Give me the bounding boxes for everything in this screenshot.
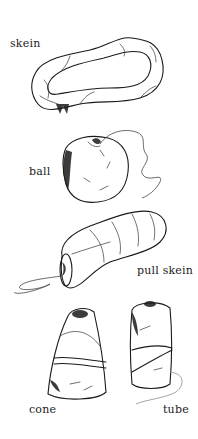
- label-skein: skein: [10, 37, 40, 50]
- label-cone: cone: [29, 403, 56, 416]
- pull-skein-drawing: [14, 211, 166, 293]
- label-pull-skein: pull skein: [137, 264, 193, 277]
- label-tube: tube: [163, 403, 189, 416]
- tube-drawing: [131, 301, 183, 404]
- label-ball: ball: [29, 165, 50, 178]
- cone-drawing: [48, 309, 106, 400]
- yarn-forms-illustration: [0, 0, 198, 439]
- ball-drawing: [63, 131, 161, 203]
- skein-drawing: [32, 38, 163, 114]
